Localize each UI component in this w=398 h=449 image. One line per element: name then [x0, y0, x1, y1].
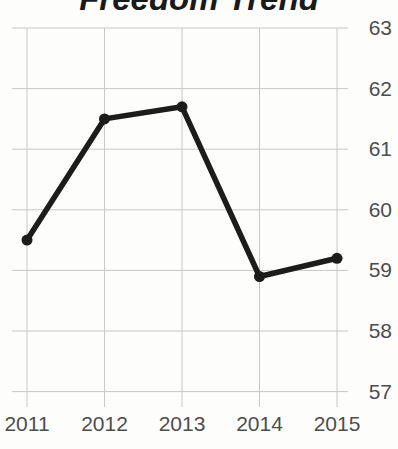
y-axis-tick-label: 62 — [348, 77, 392, 101]
data-point-marker — [332, 253, 343, 264]
x-axis-tick-label: 2011 — [0, 412, 66, 436]
data-point-marker — [254, 271, 265, 282]
x-axis-tick-label: 2015 — [298, 412, 376, 436]
y-axis-tick-label: 57 — [348, 380, 392, 404]
line-chart-plot-area — [0, 0, 398, 449]
y-axis-tick-label: 60 — [348, 198, 392, 222]
y-axis-tick-label: 61 — [348, 137, 392, 161]
x-axis-tick-label: 2014 — [221, 412, 299, 436]
freedom-trend-chart: Freedom Trend 63626160595857201120122013… — [0, 0, 398, 449]
x-axis-tick-label: 2013 — [143, 412, 221, 436]
data-point-marker — [99, 113, 110, 124]
y-axis-tick-label: 59 — [348, 258, 392, 282]
x-axis-tick-label: 2012 — [66, 412, 144, 436]
y-axis-tick-label: 58 — [348, 319, 392, 343]
y-axis-tick-label: 63 — [348, 16, 392, 40]
data-point-marker — [22, 235, 33, 246]
data-point-marker — [177, 101, 188, 112]
